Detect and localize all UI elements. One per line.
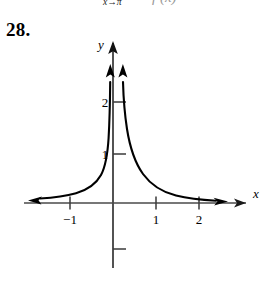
curve-group bbox=[28, 64, 228, 206]
graph-figure: y x −1 1 2 2 1 bbox=[0, 26, 274, 282]
function-expression: f (x) bbox=[152, 0, 177, 6]
x-tick-label-1: 1 bbox=[153, 212, 160, 227]
exercise-figure-page: x→π f (x) 28. bbox=[0, 0, 274, 282]
x-tick-label-minus1: −1 bbox=[63, 212, 77, 227]
top-cutoff-fragment: x→π f (x) bbox=[0, 0, 274, 14]
x-tick-label-2: 2 bbox=[196, 212, 203, 227]
limit-subscript: x→π bbox=[103, 0, 121, 7]
x-axis-label: x bbox=[252, 186, 259, 201]
y-tick-label-1: 1 bbox=[102, 147, 109, 162]
y-tick-label-2: 2 bbox=[102, 95, 109, 110]
curve-right-branch bbox=[123, 82, 216, 201]
curve-right-up-arrowhead bbox=[118, 64, 127, 78]
y-axis-ticks bbox=[113, 102, 126, 249]
curve-left-branch bbox=[40, 82, 110, 199]
axes-group bbox=[24, 41, 246, 268]
y-axis-label: y bbox=[96, 37, 104, 52]
